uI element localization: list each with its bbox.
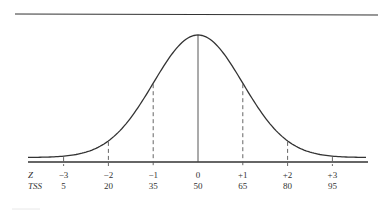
tss-tick-label: 50 (194, 181, 204, 191)
top-rule (15, 14, 378, 15)
tss-tick-label: 95 (328, 181, 338, 191)
z-tick-label: +2 (283, 170, 293, 180)
tss-tick-label: 20 (104, 181, 114, 191)
z-tick-label: 0 (196, 170, 201, 180)
z-tick-label: +1 (238, 170, 248, 180)
z-tick-label: +3 (328, 170, 338, 180)
z-tick-label: −3 (59, 170, 69, 180)
z-tick-label: −2 (104, 170, 114, 180)
normal-distribution-chart: Z TSS −35−220−135050+165+280+395 (0, 0, 387, 212)
normal-curve (28, 35, 366, 157)
tss-tick-label: 5 (61, 181, 66, 191)
tss-tick-label: 35 (149, 181, 159, 191)
axis-labels: Z TSS −35−220−135050+165+280+395 (28, 170, 338, 191)
tss-row-label: TSS (28, 181, 43, 191)
z-tick-label: −1 (148, 170, 158, 180)
tss-tick-label: 80 (283, 181, 293, 191)
z-row-label: Z (28, 170, 34, 180)
tss-tick-label: 65 (238, 181, 248, 191)
